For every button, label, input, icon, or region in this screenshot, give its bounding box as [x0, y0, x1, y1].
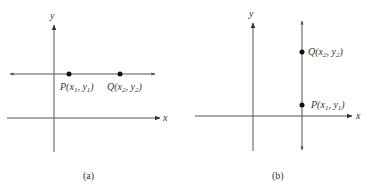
- caption-a: (a): [83, 170, 94, 182]
- y-axis-label: y: [248, 8, 254, 19]
- point-q: [300, 50, 305, 55]
- y-axis-label: y: [49, 10, 55, 21]
- point-p-label: P(x1, y1): [310, 99, 345, 112]
- panel-b: y x Q(x2, y2) P(x1, y1) (b): [195, 8, 361, 182]
- caption-b: (b): [272, 170, 284, 182]
- point-q-label: Q(x2, y2): [308, 46, 343, 59]
- panel-a: y x P(x1, y1) Q(x2, y2) (a): [7, 10, 168, 182]
- point-p-label: P(x1, y1): [59, 81, 94, 94]
- point-p: [67, 72, 72, 77]
- x-axis-label: x: [355, 110, 361, 121]
- point-q-label: Q(x2, y2): [107, 81, 142, 94]
- x-axis-label: x: [162, 112, 168, 123]
- point-p: [300, 103, 305, 108]
- diagram-canvas: y x P(x1, y1) Q(x2, y2) (a) y x Q(x2, y2…: [0, 0, 371, 191]
- point-q: [118, 72, 123, 77]
